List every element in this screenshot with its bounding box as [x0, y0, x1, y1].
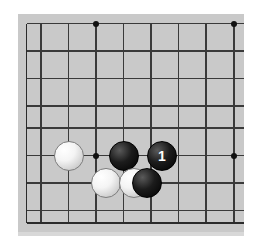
star-point-center-left [93, 153, 99, 159]
grid-line-horizontal-8 [27, 222, 245, 224]
grid-line-horizontal-0 [27, 23, 245, 25]
grid-line-vertical-6 [178, 24, 180, 224]
star-point-top-right [231, 21, 237, 27]
go-diagram-screenshot: 1 [0, 0, 257, 249]
grid-line-vertical-7 [205, 24, 207, 224]
grid-line-vertical-1 [40, 24, 42, 224]
grid-line-horizontal-1 [27, 50, 245, 52]
grid-line-horizontal-7 [27, 210, 245, 212]
grid-line-vertical-0 [26, 24, 28, 224]
white-stone-1[interactable] [54, 141, 84, 171]
black-stone-1[interactable] [109, 141, 139, 171]
black-stone-2[interactable] [132, 168, 162, 198]
grid-line-horizontal-4 [27, 127, 245, 129]
white-stone-2[interactable] [91, 168, 121, 198]
grid-line-vertical-2 [68, 24, 70, 224]
go-board-grid [0, 0, 257, 249]
star-point-center-right [231, 153, 237, 159]
black-stone-numbered-1[interactable]: 1 [147, 141, 177, 171]
grid-line-horizontal-3 [27, 105, 245, 107]
grid-line-horizontal-2 [27, 78, 245, 80]
star-point-top-left [93, 21, 99, 27]
move-number-label: 1 [148, 142, 176, 170]
grid-line-vertical-8 [233, 24, 235, 224]
